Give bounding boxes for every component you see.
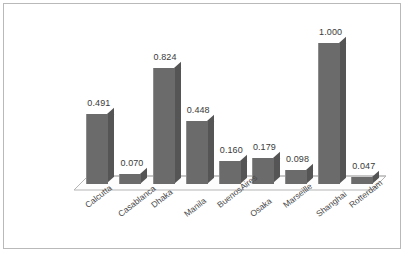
bar-front-face: [153, 68, 175, 184]
bar-side-face: [174, 61, 181, 183]
bar-side-face: [140, 168, 147, 184]
bar-front-face: [285, 170, 307, 184]
bar-value-label: 0.098: [278, 154, 318, 164]
bar-shanghai[interactable]: [318, 43, 346, 190]
bar-value-label: 0.824: [145, 52, 185, 62]
bar-manila[interactable]: [186, 121, 214, 190]
bar-front-face: [86, 114, 108, 183]
bar-dhaka[interactable]: [153, 68, 181, 190]
bar-value-label: 0.070: [112, 158, 152, 168]
bar-front-face: [219, 161, 241, 184]
chart-frame: 0.4910.0700.8240.4480.1600.1790.0981.000…: [3, 3, 401, 249]
bar-series: 0.4910.0700.8240.4480.1600.1790.0981.000…: [4, 4, 402, 250]
bar-front-face: [186, 121, 208, 184]
bar-value-label: 0.448: [178, 105, 218, 115]
bar-value-label: 0.047: [344, 161, 384, 171]
bar-side-face: [107, 108, 114, 184]
bar-front-face: [119, 174, 141, 184]
bar-value-label: 0.491: [79, 98, 119, 108]
bar-value-label: 0.179: [244, 142, 284, 152]
bar-casablanca[interactable]: [119, 174, 147, 190]
chart-plot-area: 0.4910.0700.8240.4480.1600.1790.0981.000…: [4, 4, 402, 250]
bar-osaka[interactable]: [252, 158, 280, 189]
bar-calcutta[interactable]: [86, 114, 114, 189]
bar-value-label: 1.000: [311, 27, 351, 37]
bar-front-face: [318, 43, 340, 184]
